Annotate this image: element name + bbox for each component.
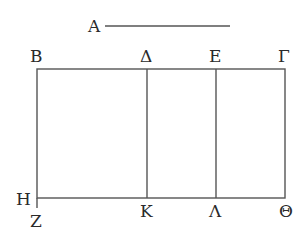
label-z: Ζ xyxy=(30,211,42,231)
label-lambda: Λ xyxy=(208,201,222,221)
label-gamma: Γ xyxy=(278,46,290,66)
label-a: A xyxy=(87,16,101,36)
label-h: Η xyxy=(16,189,31,209)
label-e: Ε xyxy=(209,46,221,66)
label-b: Β xyxy=(30,46,43,66)
rectangle-b-gamma-theta-h xyxy=(37,69,285,198)
label-k: Κ xyxy=(140,201,153,221)
label-theta: Θ xyxy=(279,201,293,221)
label-delta: Δ xyxy=(140,46,152,66)
geometry-diagram: A Β Δ Ε Γ Η Ζ Κ Λ Θ xyxy=(0,0,308,242)
